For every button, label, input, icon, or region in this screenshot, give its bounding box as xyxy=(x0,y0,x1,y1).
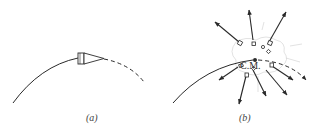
shell-icon xyxy=(78,53,104,64)
caption-a: (a) xyxy=(86,112,98,123)
trajectory-diagram-a xyxy=(0,0,160,134)
trajectory-dashed xyxy=(104,59,144,82)
fragment-arrows xyxy=(215,10,293,104)
trajectory-dashed xyxy=(258,60,306,80)
center-of-mass-label: C.M. xyxy=(240,60,261,71)
panel-a xyxy=(0,0,160,134)
trajectory-solid xyxy=(13,58,78,103)
caption-b: (b) xyxy=(239,112,251,123)
explosion-cloud xyxy=(232,22,302,92)
